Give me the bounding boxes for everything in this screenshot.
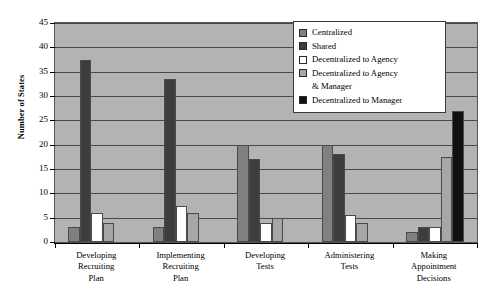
chart-legend: CentralizedSharedDecentralized to Agency… — [293, 21, 446, 113]
legend-entry-1: Shared — [299, 40, 441, 54]
category-label-line: Recruiting — [138, 261, 222, 272]
category-label-1: ImplementingRecruitingPlan — [138, 250, 222, 284]
bar-0-2 — [91, 213, 103, 242]
bar-1-2 — [176, 206, 188, 243]
y-tick-label-20: 20 — [26, 140, 48, 149]
category-label-3: AdministeringTests — [307, 250, 391, 273]
y-tick-label-5: 5 — [26, 213, 48, 222]
bar-0-3 — [103, 223, 115, 242]
bar-1-1 — [164, 79, 176, 242]
bar-4-1 — [418, 227, 430, 242]
category-label-line: Tests — [223, 261, 307, 272]
legend-swatch-icon — [299, 69, 307, 77]
legend-label-continuation: & Manager — [299, 80, 441, 94]
category-label-line: Administering — [307, 250, 391, 261]
category-label-line: Implementing — [138, 250, 222, 261]
bar-1-3 — [187, 213, 199, 242]
category-label-line: Developing — [54, 250, 138, 261]
x-tick-mark-2 — [224, 243, 225, 248]
category-label-line: Plan — [54, 273, 138, 284]
x-tick-mark-3 — [308, 243, 309, 248]
legend-swatch-icon — [299, 42, 307, 50]
category-label-line: Decisions — [392, 273, 476, 284]
category-label-line: Recruiting — [54, 261, 138, 272]
legend-swatch-icon — [299, 96, 307, 104]
bar-0-0 — [68, 227, 80, 242]
category-label-0: DevelopingRecruitingPlan — [54, 250, 138, 284]
bar-3-0 — [322, 145, 334, 242]
legend-swatch-icon — [299, 56, 307, 64]
category-label-2: DevelopingTests — [223, 250, 307, 273]
category-label-line: Making — [392, 250, 476, 261]
legend-entry-0: Centralized — [299, 26, 441, 40]
legend-swatch-icon — [299, 29, 307, 37]
category-label-line: Tests — [307, 261, 391, 272]
bar-2-3 — [272, 218, 284, 242]
x-tick-mark-4 — [393, 243, 394, 248]
category-label-line: Appointment — [392, 261, 476, 272]
category-label-4: MakingAppointmentDecisions — [392, 250, 476, 284]
bar-0-1 — [80, 60, 92, 243]
y-tick-label-35: 35 — [26, 67, 48, 76]
legend-label: Decentralized to Agency — [312, 67, 398, 81]
y-tick-label-15: 15 — [26, 164, 48, 173]
y-tick-label-30: 30 — [26, 91, 48, 100]
y-tick-label-45: 45 — [26, 18, 48, 27]
bar-2-1 — [249, 159, 261, 242]
legend-entry-3: Decentralized to Agency — [299, 67, 441, 81]
x-tick-mark-0 — [55, 243, 56, 248]
x-tick-mark-1 — [139, 243, 140, 248]
y-tick-label-0: 0 — [26, 237, 48, 246]
y-tick-label-10: 10 — [26, 188, 48, 197]
x-axis-category-labels: DevelopingRecruitingPlanImplementingRecr… — [54, 250, 478, 298]
bar-chart: Number of States 051015202530354045 Deve… — [0, 0, 487, 299]
legend-label: Centralized — [312, 26, 352, 40]
legend-entry-2: Decentralized to Agency — [299, 53, 441, 67]
bar-4-3 — [441, 157, 453, 242]
x-tick-mark-5 — [477, 243, 478, 248]
legend-entry-4: Decentralized to Manager — [299, 94, 441, 108]
bar-3-1 — [333, 154, 345, 242]
bar-4-0 — [406, 232, 418, 242]
bar-3-3 — [356, 223, 368, 242]
legend-label: Shared — [312, 40, 336, 54]
legend-label: Decentralized to Agency — [312, 53, 398, 67]
category-label-line: Developing — [223, 250, 307, 261]
y-tick-label-40: 40 — [26, 42, 48, 51]
bar-4-2 — [429, 227, 441, 242]
bar-3-2 — [345, 215, 357, 242]
x-axis-line — [54, 243, 478, 244]
bar-2-0 — [237, 145, 249, 242]
bar-4-4 — [452, 111, 464, 242]
bar-1-0 — [153, 227, 165, 242]
category-label-line: Plan — [138, 273, 222, 284]
y-tick-label-25: 25 — [26, 115, 48, 124]
bar-2-2 — [260, 223, 272, 242]
legend-label: Decentralized to Manager — [312, 94, 402, 108]
